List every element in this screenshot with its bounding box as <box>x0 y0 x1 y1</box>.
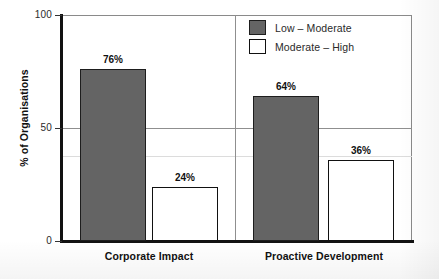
y-tick-mark-0 <box>55 241 62 242</box>
legend-swatch-icon-moderate-high <box>249 39 266 54</box>
legend-swatch-icon-low-moderate <box>249 20 266 35</box>
legend: Low – Moderate Moderate – High <box>249 18 399 56</box>
legend-item-low-moderate: Low – Moderate <box>249 18 399 37</box>
y-tick-label-0: 0 <box>26 235 52 246</box>
y-tick-label-100: 100 <box>26 9 52 20</box>
legend-item-moderate-high: Moderate – High <box>249 37 399 56</box>
y-tick-mark-50 <box>55 128 62 129</box>
y-tick-mark-100 <box>55 15 62 16</box>
bar-value-label-36: 36% <box>328 145 394 156</box>
x-category-label-corporate-impact: Corporate Impact <box>79 250 219 262</box>
bar-proactive-development-low-moderate <box>253 96 319 241</box>
legend-label-moderate-high: Moderate – High <box>275 41 354 53</box>
bar-value-label-76: 76% <box>80 54 146 65</box>
bar-corporate-impact-low-moderate <box>80 69 146 241</box>
bar-corporate-impact-moderate-high <box>152 187 218 241</box>
x-category-label-proactive-development: Proactive Development <box>252 250 396 262</box>
y-axis-title: % of Organisations <box>18 48 30 188</box>
legend-label-low-moderate: Low – Moderate <box>275 22 352 34</box>
bar-chart-figure: 100 50 0 % of Organisations 76% 24% 64% … <box>0 0 439 279</box>
bar-value-label-64: 64% <box>253 81 319 92</box>
group-divider <box>235 15 236 241</box>
bar-proactive-development-moderate-high <box>328 160 394 241</box>
bar-value-label-24: 24% <box>152 172 218 183</box>
